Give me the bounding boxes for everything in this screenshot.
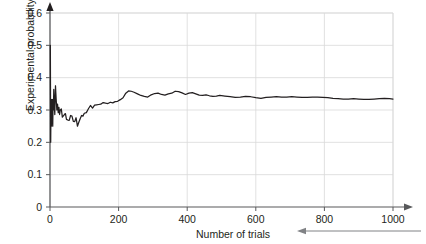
y-axis-title-text: Experimental probability [24, 0, 36, 111]
series-experimental-probability [50, 45, 393, 142]
experimental-probability-chart: 00.10.20.30.40.50.602004006008001000 Exp… [0, 0, 426, 244]
x-axis-title-text: Number of trials [196, 228, 270, 240]
x-tick-label: 0 [47, 213, 53, 225]
x-tick-label: 800 [316, 213, 334, 225]
xlabel-leader-arrow [297, 228, 421, 234]
chart-svg: 00.10.20.30.40.50.602004006008001000 [0, 0, 426, 244]
y-tick-label: 0 [36, 201, 42, 213]
x-axis-title: Number of trials [196, 224, 270, 242]
tick-marks [46, 13, 393, 211]
data-line [50, 45, 393, 142]
tick-labels: 00.10.20.30.40.50.602004006008001000 [27, 7, 404, 225]
gridlines [50, 13, 393, 207]
x-tick-label: 1000 [381, 213, 405, 225]
axes [46, 2, 413, 210]
x-tick-label: 200 [110, 213, 128, 225]
y-axis-title: Experimental probability [20, 0, 34, 140]
x-tick-label: 400 [178, 213, 196, 225]
y-tick-label: 0.1 [27, 168, 42, 180]
